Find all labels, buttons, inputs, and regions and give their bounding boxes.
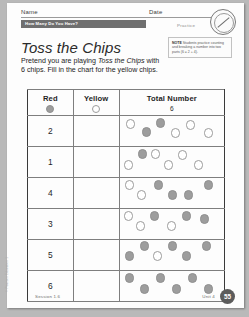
cell-yellow-answer[interactable] [73, 240, 119, 271]
total-number-value: 6 [120, 105, 224, 112]
chip-field [120, 209, 224, 239]
column-header-total: Total Number 6 [119, 90, 224, 116]
chip-field [120, 178, 224, 208]
cell-yellow-answer[interactable] [73, 116, 119, 147]
worksheet-header: Name Date How Many Do You Have? Practice [7, 3, 244, 35]
filled-chip-icon [28, 105, 73, 113]
cell-total-chips [119, 116, 224, 147]
practice-label: Practice [177, 23, 195, 28]
table-row: 1 [28, 147, 225, 178]
chips-chart-table: Red Yellow Total Number 6 2 [27, 89, 225, 302]
cell-red-count: 4 [28, 178, 74, 209]
cell-yellow-answer[interactable] [73, 209, 119, 240]
instructions-text: Pretend you are playing Toss the Chips w… [21, 57, 161, 75]
table-header: Red Yellow Total Number 6 [28, 90, 225, 116]
cell-total-chips [119, 178, 224, 209]
table-row: 3 [28, 209, 225, 240]
table-row: 4 [28, 178, 225, 209]
footer-unit: Unit 4 [202, 294, 215, 299]
worksheet-page: Name Date How Many Do You Have? Practice… [7, 3, 244, 308]
column-header-total-label: Total Number [120, 90, 224, 103]
column-header-red-label: Red [28, 90, 73, 103]
seal-slash-icon [217, 17, 229, 27]
pencil-circle-seal-icon [210, 9, 236, 35]
cell-total-chips [119, 209, 224, 240]
open-chip-icon [74, 105, 119, 113]
unit-banner-title: How Many Do You Have? [21, 20, 146, 28]
cell-red-count: 5 [28, 240, 74, 271]
cell-yellow-answer[interactable] [73, 271, 119, 302]
name-label: Name [21, 9, 38, 15]
chip-field [120, 240, 224, 270]
instructions-emphasis: Toss the Chips [98, 57, 145, 65]
column-header-red: Red [28, 90, 74, 116]
teacher-note-box: NOTE Students practice counting and brea… [168, 37, 232, 58]
name-write-line[interactable] [21, 17, 161, 18]
table-row: 5 [28, 240, 225, 271]
cell-red-count: 2 [28, 116, 74, 147]
footer-session: Session 1.6 [35, 294, 60, 299]
cell-total-chips [119, 240, 224, 271]
page-title: Toss the Chips [21, 39, 121, 56]
date-label: Date [149, 9, 162, 15]
table-body: 2 1 [28, 116, 225, 302]
column-header-yellow: Yellow [73, 90, 119, 116]
table-row: 2 [28, 116, 225, 147]
cell-total-chips [119, 147, 224, 178]
chip-field [120, 116, 224, 146]
table-header-row: Red Yellow Total Number 6 [28, 90, 225, 116]
column-header-yellow-label: Yellow [74, 90, 119, 103]
footer-page-number: 55 [220, 289, 235, 304]
cell-red-count: 1 [28, 147, 74, 178]
note-tag: NOTE [172, 41, 182, 45]
cell-red-count: 3 [28, 209, 74, 240]
cell-yellow-answer[interactable] [73, 178, 119, 209]
cell-yellow-answer[interactable] [73, 147, 119, 178]
copyright-sidetext: © Pearson Education 1 [5, 257, 9, 292]
chip-field [120, 147, 224, 177]
instructions-part1: Pretend you are playing [21, 57, 98, 65]
